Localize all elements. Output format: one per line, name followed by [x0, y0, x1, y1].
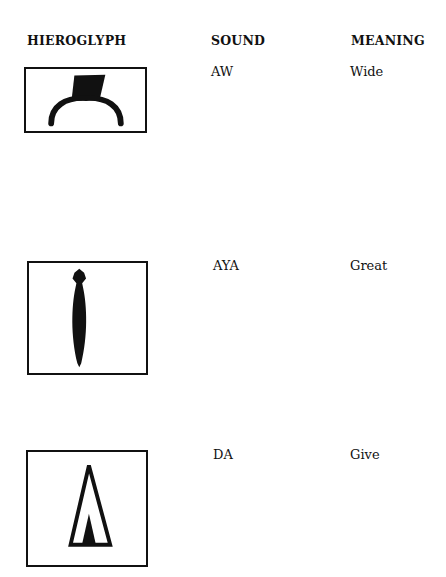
header-hieroglyph: HIEROGLYPH [27, 33, 126, 48]
great-hieroglyph-icon [27, 261, 148, 375]
sound-cell: AW [211, 64, 233, 79]
wide-hieroglyph-icon [24, 67, 147, 133]
meaning-cell: Great [350, 258, 387, 273]
header-sound: SOUND [211, 33, 265, 48]
give-hieroglyph-icon [26, 450, 148, 567]
sound-cell: AYA [213, 258, 239, 273]
meaning-cell: Wide [350, 64, 383, 79]
header-meaning: MEANING [351, 33, 425, 48]
meaning-cell: Give [350, 447, 380, 462]
sound-cell: DA [213, 447, 233, 462]
